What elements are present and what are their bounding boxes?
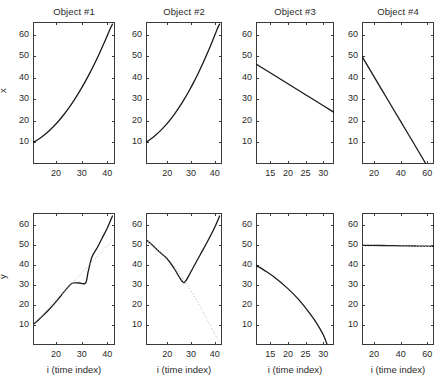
plot-panel-bottom-4: 102030405060204060i (time index) <box>0 0 441 386</box>
plot-curves-bottom-4 <box>0 0 441 386</box>
figure-canvas: Object #1102030405060203040xObject #2102… <box>0 0 441 386</box>
